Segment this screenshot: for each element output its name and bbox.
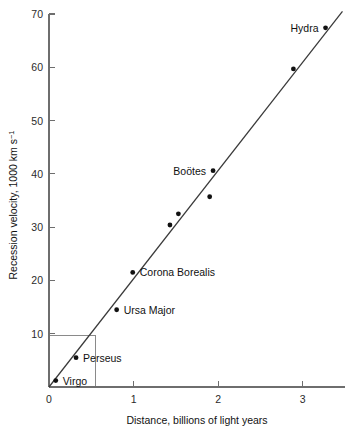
x-axis-tick-label: 2	[215, 393, 221, 405]
hubble-diagram: 10203040506070 0123 VirgoPerseusUrsa Maj…	[0, 0, 359, 430]
y-axis-tick-label: 30	[31, 221, 43, 233]
data-point	[74, 355, 79, 360]
y-axis-tick-label: 20	[31, 274, 43, 286]
y-axis-tick-label: 70	[31, 8, 43, 20]
data-point	[114, 307, 119, 312]
x-axis-tick-label: 3	[300, 393, 306, 405]
y-axis-title-text: Recession velocity, 1000 km s	[7, 139, 19, 279]
data-point	[291, 66, 296, 71]
data-point-label: Boötes	[173, 165, 206, 177]
x-axis-title: Distance, billions of light years	[126, 414, 267, 426]
data-point	[211, 168, 216, 173]
data-point-labels-group: VirgoPerseusUrsa MajorCorona BorealisBoö…	[63, 22, 319, 387]
y-axis-tick-label: 10	[31, 328, 43, 340]
x-axis-tick-labels-group: 0123	[46, 393, 306, 405]
y-axis-tick-label: 60	[31, 61, 43, 73]
y-axis-tick-labels-group: 10203040506070	[31, 8, 43, 340]
data-point-label: Hydra	[291, 22, 319, 34]
data-point	[207, 194, 212, 199]
data-point	[53, 378, 58, 383]
data-point	[130, 270, 135, 275]
y-axis-ticks-group	[49, 14, 55, 334]
data-point	[323, 25, 328, 30]
data-point-label: Corona Borealis	[140, 266, 215, 278]
y-axis-title: Recession velocity, 1000 km s−1	[7, 130, 20, 279]
x-axis-tick-label: 1	[131, 393, 137, 405]
data-point-label: Ursa Major	[124, 304, 176, 316]
data-point	[168, 223, 173, 228]
y-axis-tick-label: 40	[31, 168, 43, 180]
hubble-fit-line	[49, 11, 342, 387]
y-axis-title-exponent: −1	[7, 130, 16, 139]
y-axis-tick-label: 50	[31, 115, 43, 127]
data-point	[176, 211, 181, 216]
scatter-plot-svg: 10203040506070 0123 VirgoPerseusUrsa Maj…	[0, 0, 359, 430]
x-axis-ticks-group	[134, 381, 303, 387]
x-axis-tick-label: 0	[46, 393, 52, 405]
data-point-label: Perseus	[83, 352, 122, 364]
data-point-label: Virgo	[63, 375, 87, 387]
